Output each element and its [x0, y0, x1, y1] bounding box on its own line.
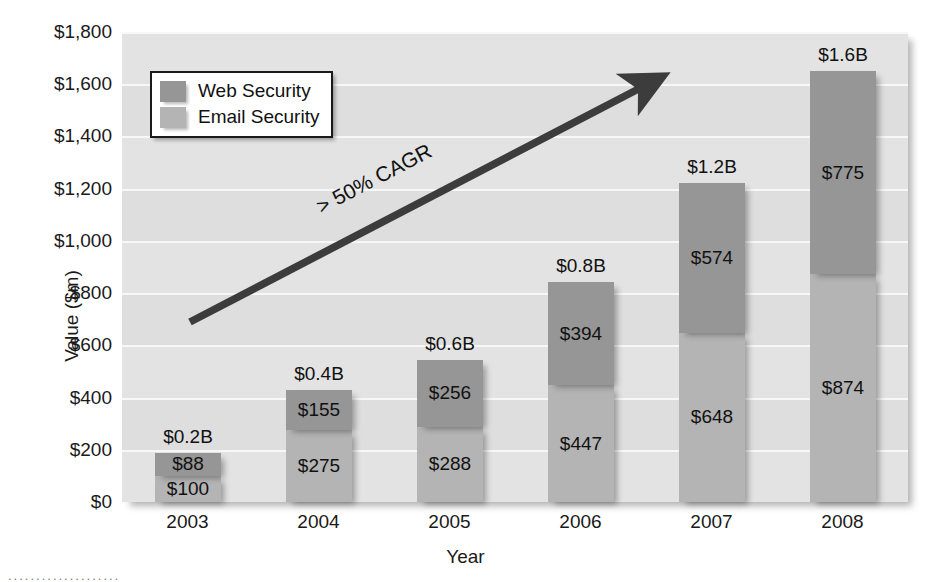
x-axis-tick-label: 2006	[521, 511, 641, 533]
plot-band	[122, 293, 908, 345]
plot-band	[122, 189, 908, 241]
bar-value-label-email-security: $275	[286, 455, 352, 477]
bar-group[interactable]: $648$574$1.2B	[679, 32, 745, 502]
bar-total-label: $0.6B	[401, 333, 499, 355]
scan-artifact-dots: ....................	[8, 568, 120, 582]
bar-group[interactable]: $447$394$0.8B	[548, 32, 614, 502]
bar-value-label-email-security: $288	[417, 453, 483, 475]
y-axis-title: Value ($m)	[61, 236, 83, 396]
bar-value-label-web-security: $155	[286, 399, 352, 421]
legend-item[interactable]: Web Security	[160, 78, 319, 104]
legend-item-label: Email Security	[198, 106, 319, 128]
bar-value-label-web-security: $256	[417, 382, 483, 404]
y-axis-tick-label: $1,200	[0, 178, 112, 200]
chart-legend: Web SecurityEmail Security	[150, 71, 333, 138]
y-axis-tick-label: $800	[0, 282, 112, 304]
y-axis-tick-label: $1,000	[0, 230, 112, 252]
legend-swatch-icon	[160, 81, 186, 102]
bar-total-label: $1.6B	[794, 44, 892, 66]
gridline	[122, 189, 908, 191]
bar-group[interactable]: $874$775$1.6B	[810, 32, 876, 502]
gridline	[122, 241, 908, 243]
gridline	[122, 450, 908, 452]
bar-value-label-web-security: $775	[810, 162, 876, 184]
y-axis-tick-label: $400	[0, 387, 112, 409]
y-axis-tick-label: $1,600	[0, 73, 112, 95]
bar-group[interactable]: $288$256$0.6B	[417, 32, 483, 502]
stacked-bar-chart: $0$200$400$600$800$1,000$1,200$1,400$1,6…	[0, 0, 931, 582]
x-axis-tick-label: 2005	[390, 511, 510, 533]
x-axis-tick-label: 2003	[128, 511, 248, 533]
bar-value-label-email-security: $447	[548, 433, 614, 455]
bar-value-label-web-security: $574	[679, 247, 745, 269]
bar-value-label-email-security: $648	[679, 406, 745, 428]
x-axis-title: Year	[0, 546, 931, 568]
y-axis-tick-label: $1,800	[0, 21, 112, 43]
bar-total-label: $0.4B	[270, 363, 368, 385]
bar-total-label: $0.8B	[532, 255, 630, 277]
legend-item[interactable]: Email Security	[160, 104, 319, 130]
legend-item-label: Web Security	[198, 80, 311, 102]
x-axis-tick-label: 2008	[783, 511, 903, 533]
bar-total-label: $1.2B	[663, 156, 761, 178]
y-axis-tick-label: $0	[0, 491, 112, 513]
x-axis-tick-label: 2007	[652, 511, 772, 533]
gridline	[122, 32, 908, 34]
gridline	[122, 345, 908, 347]
y-axis-tick-label: $1,400	[0, 125, 112, 147]
bar-value-label-email-security: $100	[155, 478, 221, 500]
legend-swatch-icon	[160, 107, 186, 128]
gridline	[122, 398, 908, 400]
gridline	[122, 293, 908, 295]
bar-value-label-web-security: $394	[548, 323, 614, 345]
bar-total-label: $0.2B	[139, 426, 237, 448]
y-axis-tick-label: $200	[0, 439, 112, 461]
bar-value-label-web-security: $88	[155, 453, 221, 475]
y-axis-tick-label: $600	[0, 334, 112, 356]
plot-band	[122, 398, 908, 450]
bar-value-label-email-security: $874	[810, 377, 876, 399]
x-axis-tick-label: 2004	[259, 511, 379, 533]
